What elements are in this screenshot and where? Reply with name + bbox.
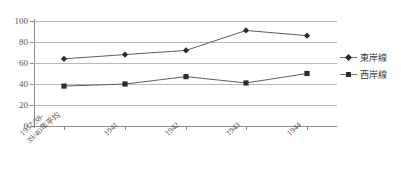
y-axis-labels: 100 80 60 40 20 0 xyxy=(0,21,28,126)
gridline xyxy=(34,84,337,85)
x-axis-tick xyxy=(64,126,65,130)
y-axis-tick-label: 60 xyxy=(19,59,28,68)
gridline xyxy=(34,105,337,106)
gridline xyxy=(34,21,337,22)
legend-item-label: 東岸線 xyxy=(357,53,387,63)
plot-area xyxy=(34,21,337,126)
diamond-marker-icon xyxy=(340,52,357,63)
legend-item-west-coast-line[interactable]: 西岸線 xyxy=(340,66,401,83)
x-axis-tick xyxy=(246,126,247,130)
gridline xyxy=(34,42,337,43)
y-axis-tick-label: 80 xyxy=(19,38,28,47)
legend-item-east-coast-line[interactable]: 東岸線 xyxy=(340,49,401,66)
y-axis-tick-label: 20 xyxy=(19,101,28,110)
line-chart: 100 80 60 40 20 0 1937/38- 39/40年平均 1941… xyxy=(0,0,401,192)
y-axis-tick-label: 40 xyxy=(19,80,28,89)
x-axis-tick xyxy=(307,126,308,130)
y-axis-tick-label: 100 xyxy=(15,17,29,26)
legend: 東岸線 西岸線 xyxy=(340,49,401,83)
gridline xyxy=(34,63,337,64)
legend-item-label: 西岸線 xyxy=(357,70,387,80)
x-axis-tick xyxy=(125,126,126,130)
square-marker-icon xyxy=(340,69,357,80)
x-axis-tick xyxy=(186,126,187,130)
